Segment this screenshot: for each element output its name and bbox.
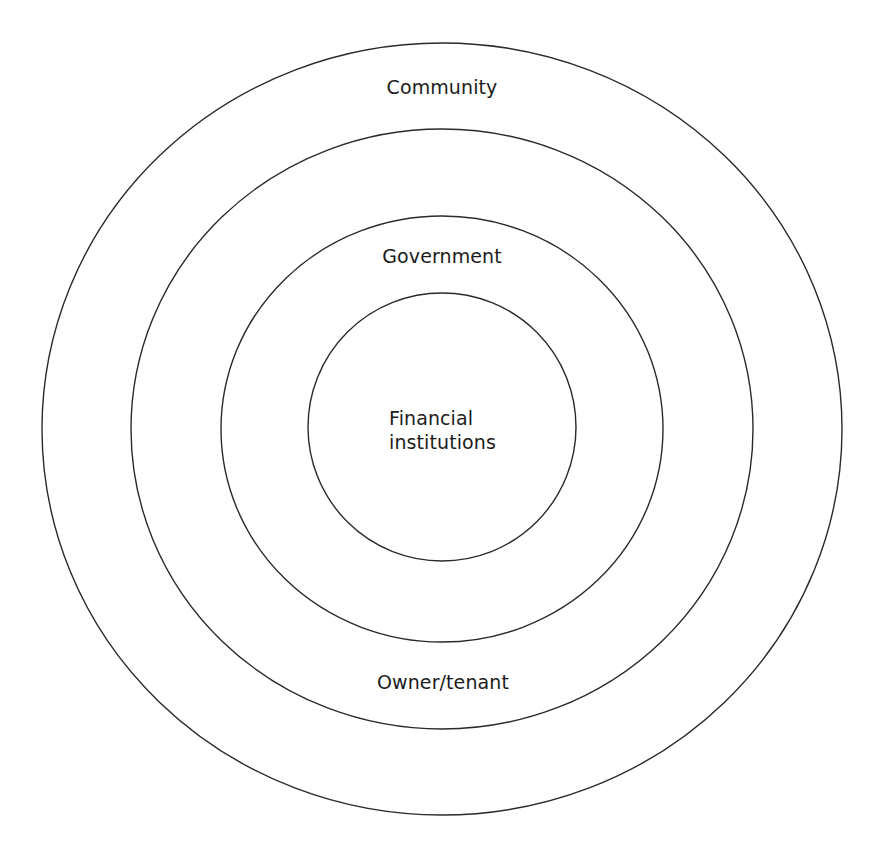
label-community: Community	[387, 76, 498, 98]
label-financial-line1: Financial	[389, 406, 496, 430]
label-financial-line2: institutions	[389, 430, 496, 454]
label-government: Government	[382, 245, 502, 267]
label-financial-institutions: Financial institutions	[389, 406, 496, 454]
label-owner-tenant: Owner/tenant	[377, 671, 509, 693]
